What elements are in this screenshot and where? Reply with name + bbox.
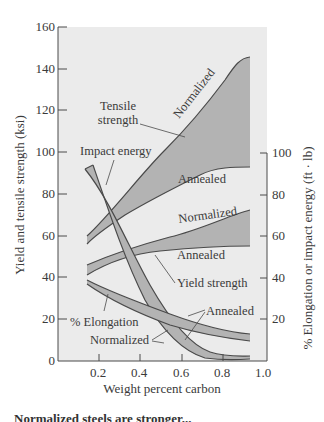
x-axis-title: Weight percent carbon — [103, 381, 221, 396]
elongation-normalized-label: Normalized — [90, 333, 150, 347]
svg-text:80: 80 — [272, 187, 285, 202]
svg-text:20: 20 — [42, 311, 55, 326]
yield-strength-label: Yield strength — [177, 276, 248, 290]
svg-text:140: 140 — [36, 61, 56, 76]
elongation-label: % Elongation — [70, 315, 139, 329]
right-y-tick-labels: 100 80 60 40 20 — [272, 145, 292, 326]
elongation-annealed-label: Annealed — [206, 304, 255, 318]
tensile-strength-label-2: strength — [98, 113, 139, 127]
svg-text:100: 100 — [272, 145, 292, 160]
svg-text:40: 40 — [272, 270, 285, 285]
svg-text:0.8: 0.8 — [214, 365, 230, 380]
figure-caption: Normalized steels are stronger... — [14, 411, 314, 422]
chart: 160 140 120 100 80 60 40 20 0 0.2 0.4 0.… — [0, 0, 324, 422]
svg-text:0: 0 — [49, 353, 56, 368]
svg-text:0.2: 0.2 — [90, 365, 106, 380]
svg-text:0.6: 0.6 — [173, 365, 190, 380]
tensile-annealed-label: Annealed — [178, 172, 227, 186]
x-tick-labels: 0.2 0.4 0.6 0.8 1.0 — [90, 365, 271, 380]
svg-text:160: 160 — [36, 19, 56, 34]
impact-energy-label: Impact energy — [80, 144, 152, 158]
svg-text:100: 100 — [36, 144, 56, 159]
svg-text:80: 80 — [42, 186, 55, 201]
tensile-strength-label-1: Tensile — [100, 99, 136, 113]
svg-text:1.0: 1.0 — [255, 365, 271, 380]
svg-text:0.4: 0.4 — [131, 365, 148, 380]
yield-annealed-label: Annealed — [177, 248, 226, 262]
svg-text:60: 60 — [42, 228, 55, 243]
left-y-axis-title: Yield and tensile strength (ksi) — [12, 115, 27, 275]
left-y-tick-labels: 160 140 120 100 80 60 40 20 0 — [36, 19, 56, 368]
svg-text:20: 20 — [272, 311, 285, 326]
svg-text:120: 120 — [36, 102, 56, 117]
svg-text:60: 60 — [272, 228, 285, 243]
svg-text:40: 40 — [42, 269, 55, 284]
right-y-axis-title: % Elongation or impact energy (ft · lb) — [300, 146, 315, 349]
